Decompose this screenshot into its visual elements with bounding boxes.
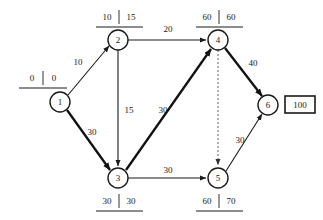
node-3-earliest-time: 30 xyxy=(103,196,113,206)
network-svg: 10 30 15 20 30 30 40 30 0 0 10 15 xyxy=(0,0,323,220)
node-6[interactable]: 6 xyxy=(258,95,278,115)
node-2-label: 2 xyxy=(116,35,121,45)
node-6-label: 6 xyxy=(266,100,271,110)
edge-weight-4-6: 40 xyxy=(249,58,259,68)
node-5-latest-time: 70 xyxy=(227,196,237,206)
edge-1-to-2[interactable] xyxy=(68,46,109,95)
node-1[interactable]: 1 xyxy=(50,92,70,112)
edge-weight-1-2: 10 xyxy=(74,57,84,67)
node-1-earliest-time: 0 xyxy=(30,73,35,83)
node-1-label: 1 xyxy=(58,97,63,107)
edge-weight-3-5: 30 xyxy=(164,165,174,175)
node-2-latest-time: 15 xyxy=(127,12,137,22)
node-3-latest-time: 30 xyxy=(127,196,137,206)
time-label-node-3: 30 30 xyxy=(96,194,143,211)
node-5-earliest-time: 60 xyxy=(203,196,213,206)
node-5-label: 5 xyxy=(216,173,221,183)
node-2-earliest-time: 10 xyxy=(103,12,113,22)
node-4-earliest-time: 60 xyxy=(203,12,213,22)
edge-weight-1-3: 30 xyxy=(88,127,98,137)
time-label-node-2: 10 15 xyxy=(96,10,143,27)
node-4-label: 4 xyxy=(216,35,221,45)
edge-1-to-3[interactable] xyxy=(67,110,110,170)
time-label-node-1: 0 0 xyxy=(19,71,67,88)
time-label-node-4: 60 60 xyxy=(196,10,243,27)
edge-weight-2-4: 20 xyxy=(164,24,174,34)
terminal-duration-box: 100 xyxy=(285,96,315,113)
edge-weight-5-6: 30 xyxy=(236,135,246,145)
node-1-latest-time: 0 xyxy=(52,73,57,83)
node-2[interactable]: 2 xyxy=(108,30,128,50)
network-diagram-canvas: 10 30 15 20 30 30 40 30 0 0 10 15 xyxy=(0,0,323,220)
node-5[interactable]: 5 xyxy=(208,168,228,188)
node-4[interactable]: 4 xyxy=(208,30,228,50)
edge-weight-2-3: 15 xyxy=(125,105,135,115)
time-label-node-5: 60 70 xyxy=(196,194,243,211)
edge-weights-layer: 10 30 15 20 30 30 40 30 xyxy=(74,24,259,175)
node-3-label: 3 xyxy=(116,173,121,183)
node-4-latest-time: 60 xyxy=(227,12,237,22)
node-3[interactable]: 3 xyxy=(108,168,128,188)
edge-3-to-4[interactable] xyxy=(126,49,211,170)
edge-4-to-6[interactable] xyxy=(225,48,262,96)
edge-weight-3-4: 30 xyxy=(159,105,169,115)
terminal-duration-value: 100 xyxy=(293,100,307,110)
